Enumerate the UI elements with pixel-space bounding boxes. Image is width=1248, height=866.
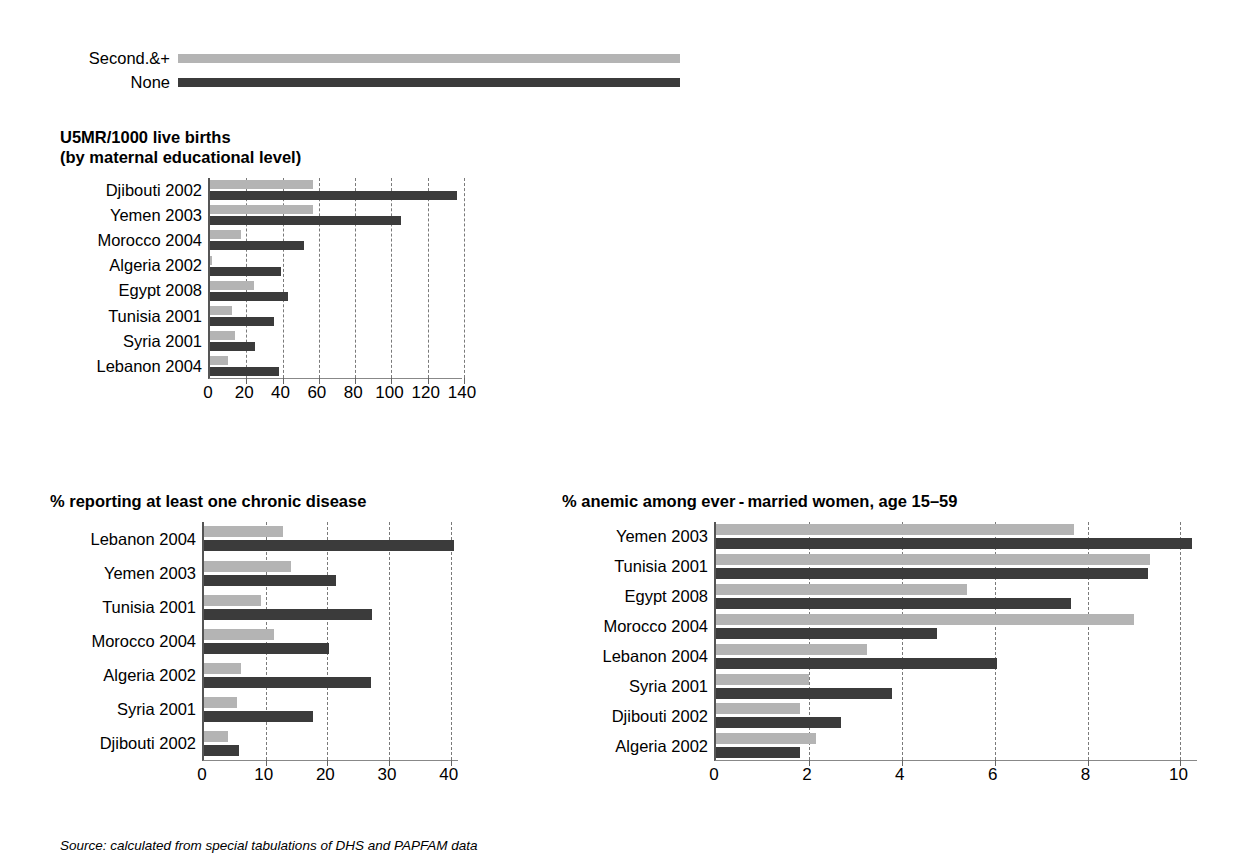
bar-group [204,693,458,727]
bar-group [204,590,458,624]
bar [204,609,372,620]
chart-u5mr-x-axis: 020406080100120140 [208,379,460,405]
bar [210,191,457,200]
chart-u5mr: U5MR/1000 live births (by maternal educa… [60,128,480,405]
x-tick-label: 20 [235,383,254,403]
bar [716,658,997,669]
x-tick-label: 10 [254,765,273,785]
x-tick-label: 100 [375,383,403,403]
bar-group [210,203,462,228]
bar [210,367,279,376]
bar-group [204,522,458,556]
legend-label-secondary-plus: Second.&+ [60,49,178,68]
x-tick-label: 2 [802,765,811,785]
bar [716,524,1074,535]
bar [716,614,1134,625]
category-label: Syria 2001 [60,328,202,353]
bar [210,205,313,214]
bar [210,356,228,365]
bar [210,256,212,265]
x-tick-label: 30 [378,765,397,785]
bar [210,342,255,351]
bar [716,747,800,758]
bar [716,598,1071,609]
category-label: Lebanon 2004 [50,522,196,556]
legend-item-secondary-plus: Second.&+ [60,46,680,70]
chart-chronic-disease-category-axis: Lebanon 2004Yemen 2003Tunisia 2001Morocc… [50,522,202,761]
bar-group [716,641,1197,671]
bar [204,540,454,551]
x-tick-label: 0 [203,383,212,403]
chart-anemia-plot-area [714,522,1197,761]
chart-chronic-disease-plot-area [202,522,458,761]
category-label: Syria 2001 [50,693,196,727]
bar [716,717,841,728]
bar [204,629,274,640]
bar-group [210,303,462,328]
category-label: Djibouti 2002 [562,701,708,731]
chart-u5mr-category-axis: Djibouti 2002Yemen 2003Morocco 2004Alger… [60,178,208,379]
bar [204,595,261,606]
bar [210,331,235,340]
category-label: Algeria 2002 [60,253,202,278]
bar [716,628,937,639]
bar-group [204,556,458,590]
x-tick-label: 140 [448,383,476,403]
bar-group [210,353,462,378]
bar [204,677,371,688]
x-tick-label: 8 [1081,765,1090,785]
legend-label-none: None [60,73,178,92]
bar [210,180,313,189]
bar-group [716,611,1197,641]
bar-group [716,552,1197,582]
source-note: Source: calculated from special tabulati… [60,838,477,853]
bar [210,317,274,326]
bar [716,554,1150,565]
bar-group [210,278,462,303]
gridline [464,178,465,378]
bar-group [204,624,458,658]
bar-group [716,582,1197,612]
x-tick-label: 10 [1169,765,1188,785]
legend-swatch-none [178,78,680,87]
bar [716,674,809,685]
chart-anemia-x-axis: 0246810 [714,761,1195,787]
chart-anemia-category-axis: Yemen 2003Tunisia 2001Egypt 2008Morocco … [562,522,714,761]
bar-group [204,727,458,761]
bar-group [210,178,462,203]
bar [716,703,800,714]
category-label: Lebanon 2004 [60,353,202,378]
bar-group [716,671,1197,701]
x-tick-label: 0 [709,765,718,785]
bar-group [210,253,462,278]
bar [716,584,967,595]
bar [204,561,291,572]
category-label: Djibouti 2002 [50,727,196,761]
category-label: Tunisia 2001 [60,303,202,328]
bar [716,688,892,699]
bar [210,230,241,239]
bar [204,745,239,756]
x-tick-label: 120 [412,383,440,403]
legend-item-none: None [60,70,680,94]
legend-swatch-secondary-plus [178,54,680,63]
category-label: Morocco 2004 [50,624,196,658]
category-label: Egypt 2008 [562,582,708,612]
category-label: Lebanon 2004 [562,641,708,671]
bar [204,526,283,537]
chart-chronic-disease-x-axis: 010203040 [202,761,456,787]
bar-group [204,658,458,692]
bar [204,731,228,742]
bar-group [716,522,1197,552]
bar [716,644,867,655]
chart-anemia-title: % anemic among ever - married women, age… [562,492,1222,512]
x-tick-label: 20 [316,765,335,785]
bar [204,697,237,708]
category-label: Yemen 2003 [60,203,202,228]
category-label: Djibouti 2002 [60,178,202,203]
bar-group [716,701,1197,731]
category-label: Egypt 2008 [60,278,202,303]
bar [716,568,1148,579]
category-label: Tunisia 2001 [50,590,196,624]
chart-u5mr-title: U5MR/1000 live births (by maternal educa… [60,128,480,168]
